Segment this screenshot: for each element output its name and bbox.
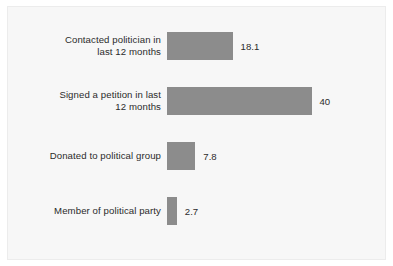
bar-row: Donated to political group 7.8 bbox=[8, 141, 385, 171]
bar-chart-plot-area: Contacted politician inlast 12 months 18… bbox=[8, 7, 385, 259]
bar-rect[interactable] bbox=[167, 87, 312, 115]
bar-value-label: 2.7 bbox=[185, 206, 198, 217]
bar-row: Member of political party 2.7 bbox=[8, 196, 385, 226]
bar-category-label: Signed a petition in last12 months bbox=[18, 89, 161, 112]
bar-rect[interactable] bbox=[167, 197, 177, 225]
bar-track: 40 bbox=[167, 86, 385, 116]
bar-row: Contacted politician inlast 12 months 18… bbox=[8, 31, 385, 61]
bar-category-label: Member of political party bbox=[18, 205, 161, 217]
bar-category-label: Donated to political group bbox=[18, 150, 161, 162]
bar-value-label: 7.8 bbox=[203, 151, 216, 162]
bar-category-label-line1: Donated to political group bbox=[50, 150, 161, 161]
bar-track: 7.8 bbox=[167, 141, 385, 171]
bar-rect[interactable] bbox=[167, 32, 233, 60]
bar-category-label-line1: Signed a petition in last bbox=[59, 89, 161, 100]
bar-value-label: 18.1 bbox=[241, 41, 260, 52]
bar-track: 18.1 bbox=[167, 31, 385, 61]
bar-track: 2.7 bbox=[167, 196, 385, 226]
chart-frame: Contacted politician inlast 12 months 18… bbox=[7, 6, 386, 260]
bar-rect[interactable] bbox=[167, 142, 195, 170]
bar-category-label-line1: Member of political party bbox=[54, 205, 161, 216]
bar-category-label-line1: Contacted politician in bbox=[65, 34, 161, 45]
bar-row: Signed a petition in last12 months 40 bbox=[8, 86, 385, 116]
bar-category-label-line2: 12 months bbox=[115, 101, 161, 112]
bar-category-label: Contacted politician inlast 12 months bbox=[18, 34, 161, 57]
bar-value-label: 40 bbox=[320, 96, 331, 107]
bar-category-label-line2: last 12 months bbox=[97, 46, 161, 57]
